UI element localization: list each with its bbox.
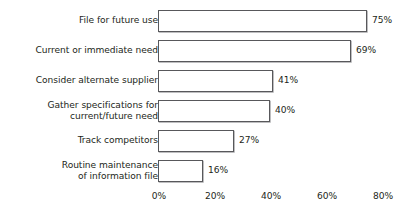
- bar[interactable]: [158, 10, 367, 32]
- value-label: 69%: [356, 45, 376, 56]
- bar[interactable]: [158, 40, 351, 62]
- bar-row: Consider alternate supplier 41%: [0, 66, 417, 96]
- category-label: Consider alternate supplier: [8, 75, 158, 86]
- bar-row: Routine maintenance of information file …: [0, 156, 417, 186]
- category-label: File for future use: [8, 15, 158, 26]
- value-label: 27%: [239, 135, 259, 146]
- bar-track: [158, 156, 203, 186]
- value-label: 40%: [275, 105, 295, 116]
- bar-track: [158, 66, 273, 96]
- category-label: Current or immediate need: [8, 45, 158, 56]
- x-axis: 0% 20% 40% 60% 80%: [0, 190, 417, 208]
- bar-row: Track competitors 27%: [0, 126, 417, 156]
- bar[interactable]: [158, 100, 270, 122]
- bar[interactable]: [158, 70, 273, 92]
- category-label: Routine maintenance of information file: [8, 160, 158, 183]
- bar[interactable]: [158, 130, 234, 152]
- x-tick-label: 20%: [205, 190, 225, 202]
- category-label: Gather specifications for current/future…: [8, 100, 158, 123]
- category-label: Track competitors: [8, 135, 158, 146]
- plot-area: File for future use 75% Current or immed…: [0, 0, 417, 188]
- bar-row: Gather specifications for current/future…: [0, 96, 417, 126]
- x-tick-label: 80%: [373, 190, 393, 202]
- bar-track: [158, 96, 270, 126]
- x-tick-label: 40%: [261, 190, 281, 202]
- bar-row: File for future use 75%: [0, 6, 417, 36]
- bar-track: [158, 126, 234, 156]
- bar-row: Current or immediate need 69%: [0, 36, 417, 66]
- value-label: 16%: [208, 165, 228, 176]
- bar[interactable]: [158, 160, 203, 182]
- value-label: 75%: [372, 15, 392, 26]
- x-tick-label: 60%: [317, 190, 337, 202]
- bar-chart: File for future use 75% Current or immed…: [0, 0, 417, 222]
- x-tick-label: 0%: [152, 190, 166, 202]
- bar-track: [158, 6, 367, 36]
- value-label: 41%: [278, 75, 298, 86]
- bar-track: [158, 36, 351, 66]
